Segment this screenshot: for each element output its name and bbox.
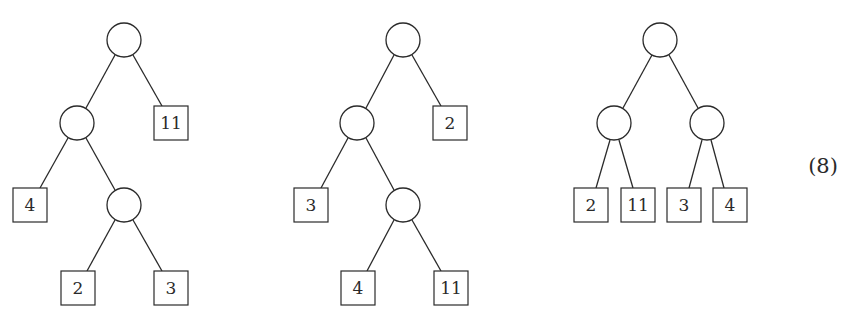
leaf-label: 2 (445, 113, 456, 133)
edge (40, 138, 68, 188)
internal-node-root (643, 23, 677, 57)
binary-trees-figure: 11 4 2 3 2 3 (0, 0, 851, 317)
internal-node (340, 106, 374, 140)
leaf-label: 11 (627, 195, 649, 215)
edge (321, 138, 348, 188)
internal-node-root (386, 23, 420, 57)
leaf-label: 3 (306, 195, 317, 215)
edge (596, 140, 610, 188)
leaf-label: 2 (73, 278, 84, 298)
internal-node (107, 188, 141, 222)
edge (669, 55, 698, 108)
leaf-label: 4 (353, 278, 364, 298)
leaf-label: 11 (440, 278, 462, 298)
edge (133, 220, 162, 271)
leaf-label: 3 (166, 278, 177, 298)
leaf-label: 2 (586, 195, 597, 215)
edge (623, 55, 652, 108)
tree-1: 11 4 2 3 (13, 23, 188, 305)
leaf-label: 4 (725, 195, 736, 215)
tree-3: 2 11 3 4 (574, 23, 747, 222)
leaf-node: 4 (341, 271, 375, 305)
edge (412, 55, 441, 106)
tree-2: 2 3 4 11 (294, 23, 468, 305)
edge (366, 138, 394, 190)
equation-number: (8) (808, 154, 838, 178)
leaf-node: 4 (13, 188, 47, 222)
leaf-node: 2 (433, 106, 467, 140)
edge (689, 140, 702, 188)
edge (86, 138, 115, 190)
internal-node (597, 106, 631, 140)
leaf-node: 4 (713, 188, 747, 222)
leaf-label: 3 (679, 195, 690, 215)
leaf-node: 3 (667, 188, 701, 222)
edge (366, 55, 394, 108)
leaf-node: 11 (154, 106, 188, 140)
leaf-label: 11 (160, 113, 182, 133)
leaf-node: 11 (621, 188, 655, 222)
leaf-node: 3 (154, 271, 188, 305)
edge (367, 220, 394, 271)
edge (86, 55, 115, 108)
internal-node (60, 106, 94, 140)
internal-node (386, 188, 420, 222)
edge (87, 220, 115, 271)
edge (412, 220, 441, 271)
internal-node (690, 106, 724, 140)
edge (619, 140, 633, 188)
leaf-node: 11 (434, 271, 468, 305)
edge (133, 55, 162, 106)
leaf-node: 3 (294, 188, 328, 222)
internal-node-root (107, 23, 141, 57)
leaf-label: 4 (25, 195, 36, 215)
leaf-node: 2 (61, 271, 95, 305)
edge (711, 140, 724, 188)
leaf-node: 2 (574, 188, 608, 222)
